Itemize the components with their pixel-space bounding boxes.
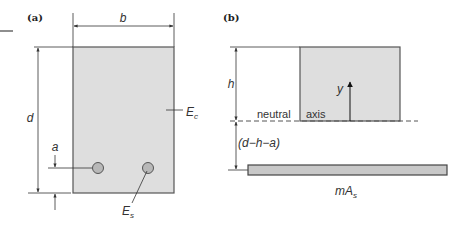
axis-label: axis <box>306 108 326 120</box>
depth-label: d <box>27 111 34 125</box>
steel-area-label: mAs <box>335 184 357 200</box>
rebar-right <box>143 163 154 174</box>
panel-b-label: (b) <box>223 12 239 23</box>
neutral-label: neutral <box>257 108 291 120</box>
y-label: y <box>336 82 344 96</box>
panel-b: (b) h neutral axis y (d−h−a) mAs <box>223 12 447 200</box>
cover-label: a <box>52 140 59 154</box>
gap-label: (d−h−a) <box>238 136 280 150</box>
steel-modulus-label: Es <box>122 204 134 220</box>
concrete-modulus-label: Ec <box>186 105 198 121</box>
transformed-section-diagram: (a) b d a Ec Es (b) h <box>0 0 465 230</box>
rebar-left <box>93 163 104 174</box>
panel-a: (a) b d a Ec Es <box>27 11 198 220</box>
width-label: b <box>120 11 127 25</box>
transformed-steel-area <box>248 165 447 175</box>
panel-a-label: (a) <box>27 12 43 23</box>
height-label: h <box>228 77 235 91</box>
concrete-section <box>73 47 174 193</box>
